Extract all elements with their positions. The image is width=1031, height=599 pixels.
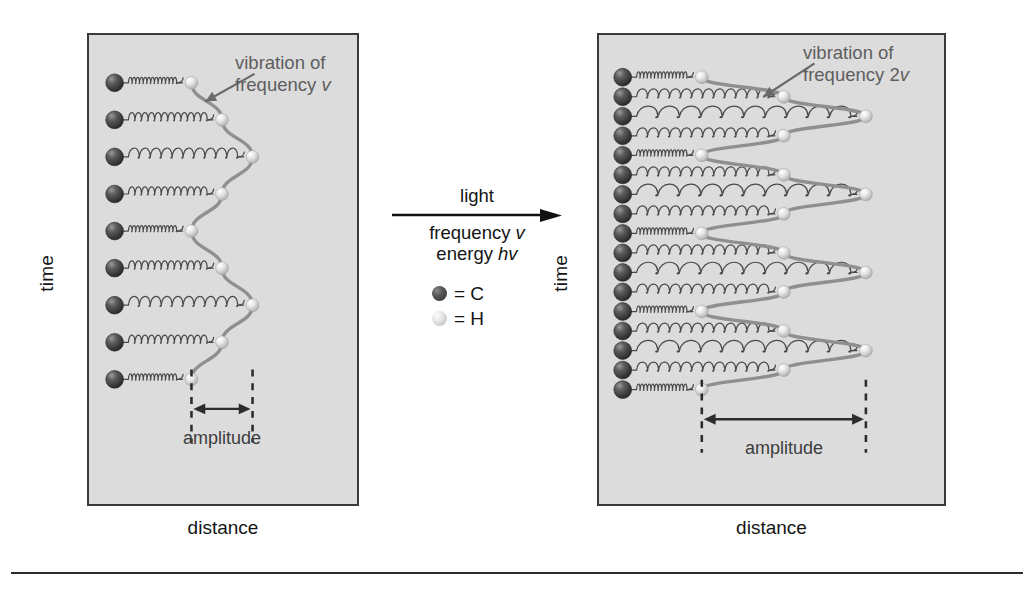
callout-left-frequency-symbol: v	[321, 74, 330, 95]
legend-label-hydrogen: = H	[454, 308, 484, 330]
axis-label-distance-left: distance	[87, 517, 359, 539]
callout-left: vibration of frequency v	[235, 52, 331, 96]
hydrogen-sphere-icon	[432, 311, 447, 326]
axis-label-distance-right: distance	[597, 517, 946, 539]
reaction-frequency-text: frequency	[429, 222, 515, 243]
reaction-arrow-block: light frequency v energy hv	[392, 186, 562, 265]
reaction-top-label: light	[392, 186, 562, 207]
reaction-arrow	[392, 208, 562, 221]
reaction-energy-text: energy	[436, 243, 498, 264]
reaction-energy-line: energy hv	[392, 243, 562, 264]
callout-left-line2: frequency v	[235, 74, 331, 96]
legend-item-carbon: = C	[432, 281, 484, 306]
reaction-frequency-symbol: v	[516, 222, 525, 243]
panel-after-absorption	[597, 33, 946, 506]
reaction-bottom-labels: frequency v energy hv	[392, 222, 562, 265]
arrow-icon	[392, 209, 562, 222]
vibration-figure: time distance vibration of frequency v a…	[0, 0, 1031, 599]
amplitude-label-left: amplitude	[112, 428, 332, 449]
callout-right: vibration of frequency 2v	[803, 42, 909, 86]
atom-legend: = C = H	[432, 281, 484, 331]
right-panel-graphic	[599, 35, 944, 504]
carbon-sphere-icon	[432, 286, 447, 301]
callout-left-line1: vibration of	[235, 52, 331, 74]
axis-label-time-left: time	[36, 255, 58, 292]
footer-divider	[11, 572, 1023, 574]
amplitude-label-right: amplitude	[674, 438, 894, 459]
callout-right-line2-text: frequency 2	[803, 64, 900, 85]
reaction-frequency-line: frequency v	[392, 222, 562, 243]
reaction-energy-symbol: hv	[498, 243, 518, 264]
axis-label-time-right: time	[550, 255, 572, 292]
callout-left-line2-text: frequency	[235, 74, 321, 95]
legend-label-carbon: = C	[454, 283, 484, 305]
callout-right-frequency-symbol: v	[900, 64, 909, 85]
legend-item-hydrogen: = H	[432, 306, 484, 331]
callout-right-line2: frequency 2v	[803, 64, 909, 86]
callout-right-line1: vibration of	[803, 42, 909, 64]
